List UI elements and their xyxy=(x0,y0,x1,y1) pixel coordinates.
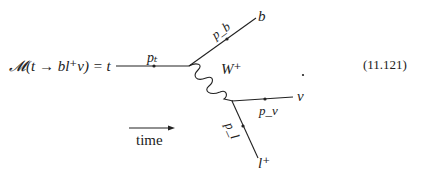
bottom-quark-label: b xyxy=(258,9,266,24)
lepton-label: l⁺ xyxy=(258,156,270,171)
neutrino-label: ν xyxy=(297,89,304,104)
top-momentum-label: pₜ xyxy=(147,51,157,65)
equation-period xyxy=(302,74,304,76)
w-boson-label: W⁺ xyxy=(221,62,241,77)
bottom-momentum-dot xyxy=(225,37,228,40)
time-arrow-head xyxy=(168,126,175,131)
lepton-momentum-dot xyxy=(241,124,244,127)
time-label: time xyxy=(136,133,163,148)
equation-number: (11.121) xyxy=(363,58,407,71)
neutrino-line xyxy=(232,97,293,101)
neutrino-momentum-label: p_ν xyxy=(259,104,278,117)
amplitude-lhs: 𝓜(t → bl⁺ν) = t xyxy=(9,59,111,74)
neutrino-momentum-dot xyxy=(263,97,266,100)
